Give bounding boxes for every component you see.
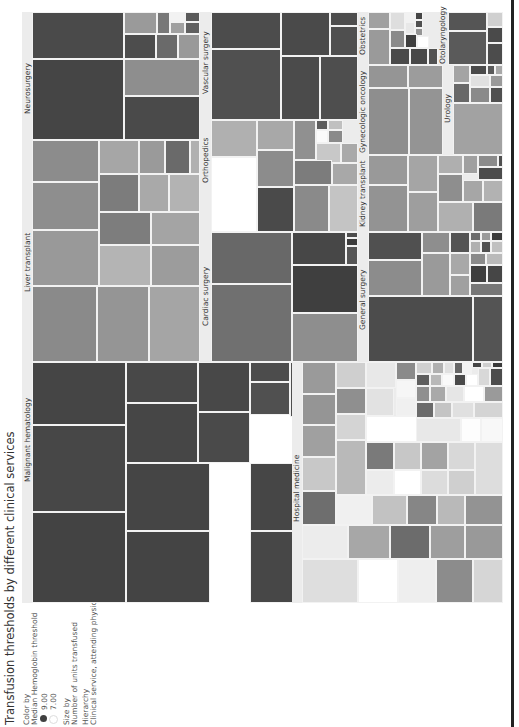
cell[interactable] (470, 265, 487, 283)
cell[interactable] (474, 402, 503, 418)
cell[interactable] (366, 388, 394, 416)
cell[interactable] (32, 512, 126, 603)
cell[interactable] (416, 402, 434, 418)
cell[interactable] (126, 463, 210, 531)
cell[interactable] (398, 559, 436, 603)
cell[interactable] (405, 34, 417, 48)
group-vascular-surgery[interactable]: Vascular surgery (200, 12, 358, 120)
cell[interactable] (372, 495, 407, 525)
group-gynecologic-oncology[interactable]: Gynecologic oncology (358, 65, 443, 155)
cell[interactable] (302, 559, 358, 603)
cell[interactable] (438, 155, 463, 174)
cell[interactable] (432, 362, 444, 374)
cell[interactable] (473, 559, 503, 603)
cell[interactable] (465, 525, 503, 559)
cell[interactable] (448, 12, 487, 31)
cell[interactable] (421, 470, 448, 495)
cell[interactable] (348, 525, 390, 559)
cell[interactable] (442, 374, 454, 386)
cell[interactable] (366, 470, 394, 495)
cell[interactable] (328, 120, 343, 130)
cell[interactable] (211, 157, 257, 232)
cell[interactable] (453, 83, 470, 103)
cell[interactable] (346, 246, 358, 265)
cell[interactable] (329, 185, 358, 232)
cell[interactable] (470, 65, 487, 75)
cell[interactable] (336, 388, 366, 414)
cell[interactable] (368, 65, 408, 88)
cell[interactable] (358, 559, 398, 603)
cell[interactable] (32, 230, 99, 286)
cell[interactable] (484, 386, 503, 402)
cell[interactable] (302, 394, 336, 425)
cell[interactable] (302, 491, 336, 525)
cell[interactable] (99, 245, 151, 286)
cell[interactable] (32, 140, 99, 182)
cell[interactable] (415, 20, 423, 28)
cell[interactable] (190, 140, 200, 174)
cell[interactable] (32, 362, 126, 425)
cell[interactable] (336, 362, 366, 388)
cell[interactable] (487, 43, 503, 65)
cell[interactable] (124, 34, 156, 59)
cell[interactable] (178, 34, 200, 59)
cell[interactable] (490, 368, 503, 386)
cell[interactable] (32, 12, 124, 59)
cell[interactable] (99, 212, 151, 245)
cell[interactable] (416, 418, 461, 442)
cell[interactable] (478, 368, 490, 386)
cell[interactable] (302, 425, 336, 457)
cell[interactable] (126, 403, 198, 463)
cell[interactable] (437, 495, 465, 525)
cell[interactable] (473, 296, 503, 362)
cell[interactable] (408, 155, 438, 192)
cell[interactable] (169, 174, 200, 212)
cell[interactable] (124, 59, 200, 96)
cell[interactable] (450, 253, 470, 275)
cell[interactable] (448, 31, 487, 65)
cell[interactable] (428, 48, 438, 65)
cell[interactable] (151, 212, 200, 245)
cell[interactable] (368, 296, 473, 362)
cell[interactable] (346, 238, 358, 246)
cell[interactable] (211, 49, 281, 120)
cell[interactable] (470, 232, 481, 241)
cell[interactable] (211, 120, 257, 157)
cell[interactable] (126, 362, 198, 403)
cell[interactable] (491, 241, 503, 253)
cell[interactable] (453, 103, 503, 155)
group-liver-transplant[interactable]: Liver transplant (22, 140, 200, 362)
cell[interactable] (390, 12, 405, 30)
cell[interactable] (292, 265, 358, 313)
cell[interactable] (151, 245, 200, 286)
cell[interactable] (250, 362, 290, 382)
group-orthopedics[interactable]: Orthopedics (200, 120, 358, 232)
cell[interactable] (470, 241, 481, 253)
cell[interactable] (292, 313, 358, 362)
cell[interactable] (417, 36, 429, 48)
cell[interactable] (478, 167, 503, 180)
cell[interactable] (124, 12, 157, 34)
cell[interactable] (407, 495, 437, 525)
cell[interactable] (450, 232, 470, 253)
cell[interactable] (170, 12, 185, 22)
cell[interactable] (368, 155, 408, 185)
cell[interactable] (32, 425, 126, 512)
cell[interactable] (139, 174, 169, 212)
cell[interactable] (332, 163, 358, 185)
cell[interactable] (448, 442, 475, 470)
cell[interactable] (281, 56, 320, 120)
cell[interactable] (32, 59, 124, 140)
cell[interactable] (294, 160, 332, 185)
cell[interactable] (422, 253, 450, 296)
cell[interactable] (421, 442, 448, 470)
cell[interactable] (257, 120, 294, 150)
cell[interactable] (368, 12, 390, 29)
cell[interactable] (444, 362, 454, 374)
cell[interactable] (405, 22, 415, 34)
cell[interactable] (470, 87, 490, 103)
cell[interactable] (316, 130, 328, 143)
cell[interactable] (487, 12, 503, 27)
cell[interactable] (198, 412, 250, 463)
group-hospital-medicine[interactable]: Hospital medicine (292, 362, 503, 603)
